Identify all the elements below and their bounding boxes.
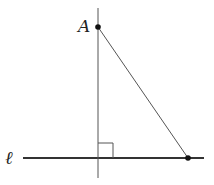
segment-a-to-b — [98, 27, 188, 158]
label-a: A — [76, 16, 90, 36]
point-a — [95, 24, 101, 30]
diagram-canvas: A ℓ — [0, 0, 214, 185]
right-angle-marker — [98, 143, 113, 158]
label-line-l: ℓ — [5, 147, 13, 168]
point-b — [185, 155, 191, 161]
